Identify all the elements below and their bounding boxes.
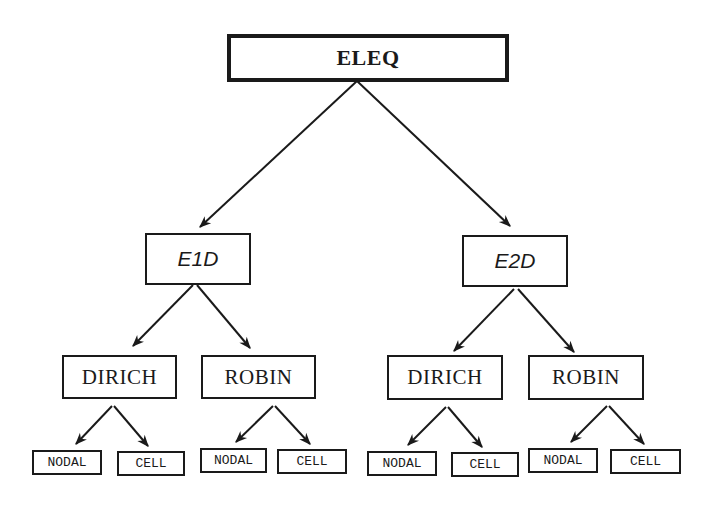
node-e1d-dirich-cell: CELL: [117, 451, 185, 476]
node-e1d: E1D: [145, 233, 251, 285]
node-label: CELL: [630, 454, 661, 469]
node-label: ROBIN: [225, 365, 293, 390]
node-e1d-robin-cell: CELL: [277, 449, 347, 474]
node-e2d: E2D: [462, 235, 568, 287]
node-e2d-robin-cell: CELL: [610, 449, 681, 474]
node-e2d-robin: ROBIN: [528, 355, 644, 400]
node-e1d-dirich: DIRICH: [62, 355, 177, 399]
edge-e1d-robin-nodal: [236, 406, 273, 442]
edge-e2d-robin-cell: [609, 406, 644, 444]
node-label: NODAL: [543, 453, 582, 468]
edge-eleq-e2d: [357, 81, 510, 226]
node-eleq: ELEQ: [227, 34, 509, 82]
edge-e2d-dirich-cell: [448, 407, 482, 447]
tree-diagram: ELEQ E1D E2D DIRICH ROBIN DIRICH ROBIN N…: [0, 0, 718, 509]
node-e1d-robin-nodal: NODAL: [200, 448, 267, 473]
node-label: CELL: [135, 456, 166, 471]
node-label: CELL: [296, 454, 327, 469]
node-e2d-dirich: DIRICH: [387, 355, 503, 400]
node-label: CELL: [469, 457, 500, 472]
node-label: DIRICH: [82, 365, 157, 390]
edge-e1d-dirich: [133, 285, 193, 346]
edge-e1d-robin: [197, 285, 250, 348]
node-label: DIRICH: [407, 365, 482, 390]
node-label: ELEQ: [336, 45, 399, 71]
node-label: ROBIN: [552, 365, 620, 390]
node-e2d-dirich-cell: CELL: [451, 452, 519, 477]
node-label: NODAL: [382, 456, 421, 471]
edge-e1d-robin-cell: [275, 406, 310, 444]
edge-e2d-robin-nodal: [571, 406, 607, 442]
node-e2d-dirich-nodal: NODAL: [367, 451, 437, 476]
node-label: NODAL: [47, 455, 86, 470]
edge-e1d-dirich-nodal: [76, 406, 112, 444]
node-e2d-robin-nodal: NODAL: [528, 448, 598, 473]
node-label: NODAL: [214, 453, 253, 468]
node-e1d-robin: ROBIN: [201, 355, 316, 399]
edge-e2d-dirich: [454, 289, 514, 351]
edge-e2d-dirich-nodal: [408, 407, 446, 445]
node-label: E2D: [495, 249, 536, 273]
edge-e1d-dirich-cell: [114, 406, 148, 446]
edge-eleq-e1d: [200, 81, 357, 227]
node-e1d-dirich-nodal: NODAL: [32, 450, 102, 475]
node-label: E1D: [178, 247, 219, 271]
edge-e2d-robin: [518, 289, 574, 352]
